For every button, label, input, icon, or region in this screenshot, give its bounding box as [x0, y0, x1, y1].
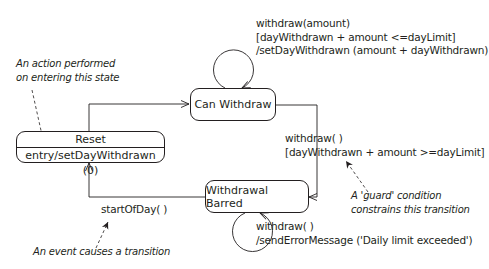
state-name: Withdrawal Barred	[206, 184, 308, 210]
guard-label: [dayWithdrawn + amount <=dayLimit]	[256, 31, 488, 45]
state-withdrawal-barred: Withdrawal Barred	[205, 180, 309, 213]
note-line: A 'guard' condition	[351, 189, 470, 203]
note-line: constrains this transition	[351, 203, 470, 217]
barred-self-label: withdraw( ) /sendErrorMessage ('Daily li…	[256, 220, 472, 247]
entry-action: entry/setDayWithdrawn (0)	[17, 148, 164, 163]
can-to-barred-label: withdraw( ) [dayWithdrawn + amount >=day…	[285, 132, 484, 159]
entry-action-note: An action performed on entering this sta…	[16, 57, 119, 84]
action-label: /setDayWithdrawn (amount + dayWithdrawn)	[256, 44, 488, 58]
note-line: An event causes a transition	[33, 246, 170, 257]
event-label: withdraw( )	[285, 132, 484, 146]
transition-reset-to-can-withdraw	[89, 104, 189, 131]
self-loop-can-withdraw	[214, 50, 254, 88]
state-reset: Reset entry/setDayWithdrawn (0)	[16, 131, 165, 163]
guard-label: [dayWithdrawn + amount >=dayLimit]	[285, 146, 484, 160]
action-label: /sendErrorMessage ('Daily limit exceeded…	[256, 234, 472, 248]
barred-to-reset-label: startOfDay( )	[101, 203, 167, 217]
guard-condition-note: A 'guard' condition constrains this tran…	[351, 189, 470, 216]
guard-note-pointer	[346, 161, 368, 192]
state-name: Reset	[17, 132, 164, 148]
event-label: withdraw( )	[256, 220, 472, 234]
event-label: withdraw(amount)	[256, 17, 488, 31]
note-line: on entering this state	[16, 71, 119, 85]
note-line: An action performed	[16, 57, 119, 71]
state-can-withdraw: Can Withdraw	[190, 88, 276, 121]
event-label: startOfDay( )	[101, 203, 167, 215]
transition-barred-to-reset	[89, 163, 205, 197]
state-name: Can Withdraw	[194, 98, 271, 111]
event-note: An event causes a transition	[33, 245, 170, 259]
can-withdraw-self-label: withdraw(amount) [dayWithdrawn + amount …	[256, 17, 488, 58]
